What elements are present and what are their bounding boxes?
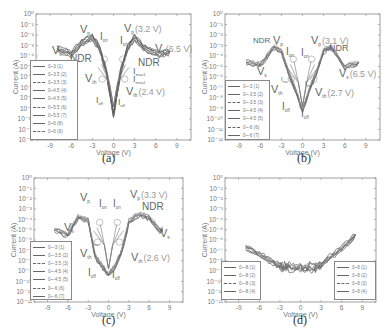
curve-annotation: Vth [80,247,92,260]
y-tick-label: 10⁻¹¹ [207,126,223,133]
curve-annotation: Ioff [112,269,120,281]
y-axis-label: Current (A) [12,60,20,95]
legend-item: 0~-4.5 (4) [228,107,267,115]
legend-label: 0~6 (9) [48,129,63,134]
x-tick-label: 3 [322,142,326,149]
y-tick-label: 10⁻² [210,31,224,38]
legend-item: 0~-3.5 (3) [33,259,69,267]
legend-item: 0~3.5 (3) [33,78,75,86]
legend-label: 0~-8 (1) [239,265,255,270]
legend-label: 0~3.5 (2) [48,72,67,77]
legend-item: 0~6 (8) [33,119,75,127]
legend-label: 0~3.5 (3) [48,80,67,85]
legend-line-swatch [33,247,45,248]
y-tick-label: 10⁻¹ [210,21,224,28]
x-tick-label: 9 [364,142,368,149]
legend-item: 0~-3.5 (2) [33,251,69,259]
curve-annotation: Ioff [301,108,309,120]
panel-label-a: (a) [102,151,115,166]
x-tick-label: 6 [340,304,344,311]
y-tick-label: 10⁻¹ [19,185,33,192]
legend-label: 0~-6 (6) [243,125,259,130]
x-tick-label: 6 [343,142,347,149]
y-tick-label: 10⁻¹⁰ [207,115,223,122]
legend-item: 0~4.5 (4) [33,87,75,95]
legend-line-swatch [33,74,45,75]
y-tick-label: 10⁻³ [210,42,224,49]
y-tick-label: 10⁻⁷ [209,84,223,91]
y-tick-label: 10⁰ [213,10,223,17]
legend-line-swatch [224,267,236,268]
legend-item: 0~3 (1) [33,62,75,70]
legend-item: 0~8 (1) [337,263,373,271]
curve-annotation: Ioff [118,97,126,108]
x-tick-label: 3 [127,304,131,311]
y-tick-label: 10⁻⁵ [209,63,223,70]
legend-label: 0~-8 (4) [239,289,255,294]
x-tick-label: 6 [154,142,158,149]
curve-annotation: Vth(2.6 V) [131,251,170,264]
legend-label: 0~-4.5 (5) [243,116,263,121]
legend-item: 0~-8 (3) [224,279,258,287]
legend-line-swatch [33,115,45,116]
legend-item: 0~8 (3) [337,279,373,287]
x-tick-label: 0 [299,304,303,311]
y-tick-label: 10⁻⁵ [209,226,223,233]
y-tick-label: 10⁻⁴ [209,52,223,59]
legend-label: 0~-4.5 (4) [243,108,263,113]
y-tick-label: 10⁰ [22,174,32,181]
y-tick-label: 10⁻⁴ [209,216,223,223]
curve-annotation: NDR [138,57,160,68]
y-tick-label: 10⁻⁷ [209,247,223,254]
legend-line-swatch [33,66,45,67]
curve-annotation: Vp(3.2 V) [124,22,162,35]
x-tick-label: -9 [236,142,242,149]
legend-item: 0~-3 (1) [228,82,267,90]
y-tick-label: 10⁻³ [21,42,35,49]
legend-item: 0~5.5 (6) [33,103,75,111]
y-tick-label: 10⁻⁶ [209,236,223,243]
curve-annotation: Ion [286,46,294,58]
legend-line-swatch [33,82,45,83]
legend-item: 0~-4.5 (4) [33,268,69,276]
legend-label: 0~-4.5 (5) [48,277,68,282]
x-tick-label: 3 [133,142,137,149]
y-tick-label: 10⁻² [19,195,33,202]
curve-annotation: NDR [253,36,271,45]
curve-annotation: Ion [120,35,128,47]
legend-label: 0~-3.5 (2) [243,92,263,97]
legend-label: 0~4.5 (5) [48,96,67,101]
x-tick-label: -3 [85,304,91,311]
curve-annotation: Imax [92,239,99,247]
legend-label: 0~3 (1) [48,64,63,69]
legend-line-swatch [228,102,240,103]
legend-line-swatch [228,110,240,111]
curve-annotation: Vp(3.3 V) [130,188,168,201]
curve-annotation: NDR [329,43,349,53]
curve-annotation: Vs(6.5 V) [155,42,192,55]
legend-line-swatch [33,296,45,297]
curve-annotation: Vth [85,72,97,85]
plot-c: 10⁰10⁻¹10⁻²10⁻³10⁻⁴10⁻⁵10⁻⁶10⁻⁷10⁻⁸10⁻⁹1… [0,165,193,331]
legend-item: 0~-6 (6) [33,284,69,292]
y-tick-label: 10⁻⁹ [209,105,223,112]
panel-a: 10⁰10⁻¹10⁻²10⁻³10⁻⁴10⁻⁵10⁻⁶10⁻⁷10⁻⁸10⁻⁹1… [0,0,193,165]
legend-label: 0~4.5 (4) [48,88,67,93]
curve-annotation: Ioff [96,95,104,106]
legend-label: 0~5.5 (6) [48,105,67,110]
legend-item: 0~-3.5 (2) [228,90,267,98]
legend-line-swatch [228,135,240,136]
x-tick-label: 9 [168,304,172,311]
x-tick-label: 3 [319,304,323,311]
x-tick-label: 6 [147,304,151,311]
y-tick-label: 10⁻¹ [21,21,35,28]
legend-line-swatch [33,98,45,99]
legend-line-swatch [337,291,349,292]
legend-a: 0~3 (1)0~3.5 (2)0~3.5 (3)0~4.5 (4)0~4.5 … [30,60,78,140]
y-axis-label: Current (A) [201,223,209,258]
legend-label: 0~-3.5 (3) [243,100,263,105]
y-tick-label: 10⁻¹ [210,185,224,192]
legend-label: 0~8 (4) [352,289,367,294]
legend-line-swatch [337,283,349,284]
legend-item: 0~-6 (7) [33,292,69,300]
